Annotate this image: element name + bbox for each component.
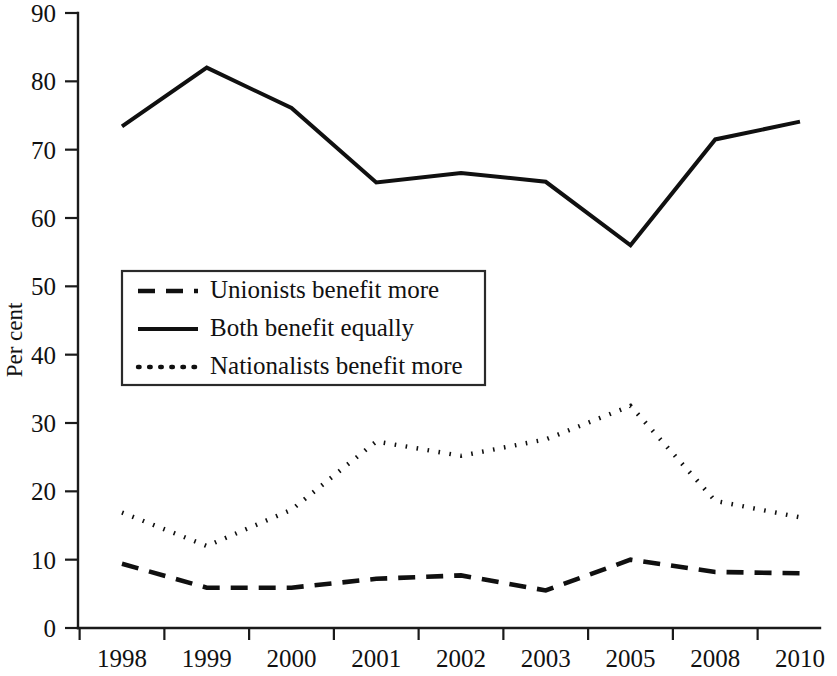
x-axis-tick-label: 2000 <box>267 645 317 672</box>
y-axis-title: Per cent <box>2 302 27 377</box>
y-axis-tick-label: 10 <box>31 547 56 574</box>
x-axis-tick-label: 2001 <box>351 645 401 672</box>
x-axis-tick-label: 2008 <box>690 645 740 672</box>
y-axis-tick-label: 80 <box>31 68 56 95</box>
x-axis-tick-label: 2003 <box>521 645 571 672</box>
y-axis: 0102030405060708090 <box>31 0 78 642</box>
legend-label: Nationalists benefit more <box>210 352 463 379</box>
legend-label: Unionists benefit more <box>210 276 439 303</box>
x-axis-tick-label: 1999 <box>182 645 232 672</box>
x-axis-tick-label: 2005 <box>606 645 656 672</box>
x-axis: 199819992000200120022003200520082010 <box>78 628 825 672</box>
y-axis-tick-label: 90 <box>31 0 56 27</box>
y-axis-tick-label: 0 <box>44 615 57 642</box>
y-axis-tick-label: 70 <box>31 137 56 164</box>
chart-legend: Unionists benefit moreBoth benefit equal… <box>122 271 485 385</box>
x-axis-tick-label: 2002 <box>436 645 486 672</box>
y-axis-tick-label: 60 <box>31 205 56 232</box>
chart-container: 0102030405060708090 19981999200020012002… <box>0 0 837 676</box>
y-axis-tick-label: 20 <box>31 478 56 505</box>
x-axis-tick-label: 2010 <box>775 645 825 672</box>
y-axis-tick-label: 50 <box>31 273 56 300</box>
x-axis-tick-label: 1998 <box>97 645 147 672</box>
y-axis-tick-label: 40 <box>31 342 56 369</box>
series-line-dotted <box>122 406 800 546</box>
series-line-solid <box>122 68 800 246</box>
line-chart-figure: 0102030405060708090 19981999200020012002… <box>0 0 837 676</box>
series-line-dashed <box>122 560 800 591</box>
legend-label: Both benefit equally <box>210 314 415 341</box>
y-axis-tick-label: 30 <box>31 410 56 437</box>
